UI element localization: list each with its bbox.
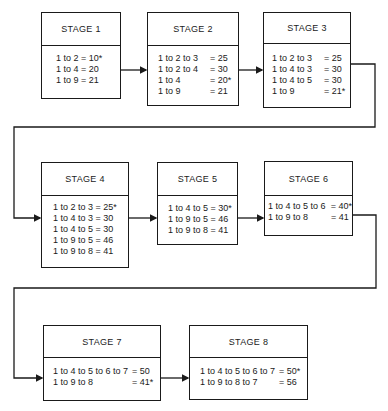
stage-3-box: STAGE 3 1 to 2 to 3= 25 1 to 4 to 3= 30 … [263, 12, 351, 108]
route-row: 1 to 2 to 3 = 25* [53, 202, 128, 213]
stage-2-box: STAGE 2 1 to 2 to 3= 25 1 to 2 to 4= 30 … [147, 12, 239, 106]
stage-7-box: STAGE 7 1 to 4 to 5 to 6 to 7= 50 1 to 9… [43, 325, 161, 401]
stage-title: STAGE 6 [265, 162, 352, 196]
stage-title: STAGE 5 [158, 163, 237, 196]
route-row: 1 to 9 = 21 [56, 75, 120, 86]
route-row: 1 to 4 to 5 to 6= 40* [268, 201, 352, 212]
route-row: 1 to 4= 20* [158, 75, 238, 86]
stage-title: STAGE 1 [42, 13, 120, 46]
route-row: 1 to 9= 21 [158, 86, 238, 97]
route-row: 1 to 2 to 3= 25 [158, 53, 238, 64]
route-row: 1 to 9 to 8 = 41 [168, 225, 237, 236]
route-row: 1 to 9 to 8 = 41 [53, 246, 128, 257]
route-row: 1 to 4 to 5 = 30 [53, 224, 128, 235]
stage-title: STAGE 8 [190, 326, 307, 358]
route-row: 1 to 4 to 3 = 30 [53, 213, 128, 224]
stage-title: STAGE 7 [44, 326, 160, 358]
route-row: 1 to 2 to 4= 30 [158, 64, 238, 75]
route-row: 1 to 9= 21* [272, 86, 350, 97]
route-row: 1 to 4 = 20 [56, 64, 120, 75]
route-row: 1 to 9 to 8= 41 [268, 212, 352, 223]
route-row: 1 to 4 to 3= 30 [272, 64, 350, 75]
route-row: 1 to 2 = 10* [56, 53, 120, 64]
stage-1-box: STAGE 1 1 to 2 = 10* 1 to 4 = 20 1 to 9 … [41, 12, 121, 99]
stage-title: STAGE 2 [148, 13, 238, 46]
route-row: 1 to 2 to 3= 25 [272, 53, 350, 64]
stage-title: STAGE 4 [42, 163, 128, 196]
route-row: 1 to 4 to 5 to 6 to 7= 50* [200, 366, 307, 377]
route-row: 1 to 9 to 8 to 7= 56 [200, 377, 307, 388]
route-row: 1 to 9 to 5 = 46 [53, 235, 128, 246]
stage-8-box: STAGE 8 1 to 4 to 5 to 6 to 7= 50* 1 to … [189, 325, 308, 400]
stage-4-box: STAGE 4 1 to 2 to 3 = 25* 1 to 4 to 3 = … [41, 162, 129, 268]
route-row: 1 to 9 to 5 = 46 [168, 214, 237, 225]
route-row: 1 to 4 to 5 = 30* [168, 203, 237, 214]
stage-title: STAGE 3 [264, 13, 350, 44]
route-row: 1 to 4 to 5= 30 [272, 75, 350, 86]
stage-5-box: STAGE 5 1 to 4 to 5 = 30* 1 to 9 to 5 = … [157, 162, 238, 245]
stage-6-box: STAGE 6 1 to 4 to 5 to 6= 40* 1 to 9 to … [264, 161, 353, 236]
route-row: 1 to 9 to 8= 41* [53, 377, 160, 388]
route-row: 1 to 4 to 5 to 6 to 7= 50 [53, 366, 160, 377]
